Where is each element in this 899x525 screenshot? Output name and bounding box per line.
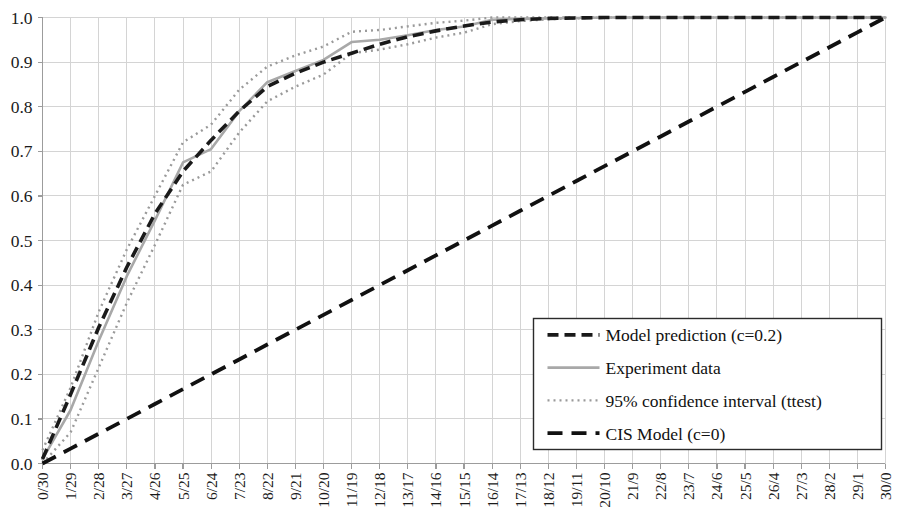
x-axis-tick-label: 3/27 xyxy=(118,472,135,500)
x-axis-tick-label: 7/23 xyxy=(231,472,248,500)
x-axis-tick-label: 2/28 xyxy=(90,472,107,500)
legend-label: Experiment data xyxy=(606,358,721,378)
x-axis-tick-label: 9/21 xyxy=(287,473,304,501)
x-axis-tick-label: 26/4 xyxy=(765,472,782,500)
x-axis-tick-label: 0/30 xyxy=(34,472,51,500)
y-axis-tick-label: 0.6 xyxy=(11,186,33,206)
x-axis-tick-label: 5/25 xyxy=(175,472,192,500)
x-axis-tick-label: 6/24 xyxy=(203,472,220,500)
x-axis-tick-label: 4/26 xyxy=(146,472,163,500)
chart-container: 1.00.90.80.70.60.50.40.30.20.10.0 0/301/… xyxy=(0,0,899,525)
x-axis-tick-label: 30/0 xyxy=(877,472,894,500)
legend-label: 95% confidence interval (ttest) xyxy=(606,391,822,411)
x-axis-tick-label: 21/9 xyxy=(624,472,641,500)
y-axis-tick-label: 0.2 xyxy=(11,364,33,384)
legend-label: CIS Model (c=0) xyxy=(606,424,726,444)
y-axis-tick-label: 0.5 xyxy=(11,231,33,251)
y-axis-tick-labels: 1.00.90.80.70.60.50.40.30.20.10.0 xyxy=(11,8,33,474)
x-axis-tick-label: 23/7 xyxy=(680,472,697,500)
x-axis-tick-label: 28/2 xyxy=(821,473,838,501)
x-axis-tick-label: 14/16 xyxy=(427,472,444,508)
x-axis-tick-label: 25/5 xyxy=(737,472,754,500)
x-axis-tick-label: 12/18 xyxy=(371,472,388,508)
y-axis-tick-label: 0.8 xyxy=(11,97,33,117)
x-axis-tick-label: 17/13 xyxy=(512,472,529,508)
y-axis-tick-label: 0.3 xyxy=(11,320,33,340)
legend-label: Model prediction (c=0.2) xyxy=(606,325,783,345)
y-axis-tick-label: 1.0 xyxy=(11,8,33,28)
y-axis-tick-label: 0.4 xyxy=(11,275,33,295)
x-axis-tick-label: 16/14 xyxy=(484,472,501,508)
x-axis-tick-label: 15/15 xyxy=(456,472,473,508)
x-axis-tick-label: 24/6 xyxy=(708,472,725,500)
x-axis-tick-label: 19/11 xyxy=(568,473,585,508)
line-chart: 1.00.90.80.70.60.50.40.30.20.10.0 0/301/… xyxy=(0,0,899,525)
x-axis-tick-label: 18/12 xyxy=(540,473,557,508)
y-axis-tick-label: 0.7 xyxy=(11,141,33,161)
chart-legend: Model prediction (c=0.2)Experiment data9… xyxy=(534,319,882,450)
y-axis-tick-label: 0.9 xyxy=(11,52,33,72)
y-axis-tick-label: 0.0 xyxy=(11,454,33,474)
x-axis-tick-label: 22/8 xyxy=(652,472,669,500)
x-axis-tick-marks xyxy=(43,464,886,469)
x-axis-tick-label: 11/19 xyxy=(343,472,360,507)
y-axis-tick-label: 0.1 xyxy=(11,409,33,429)
x-axis-tick-label: 8/22 xyxy=(259,473,276,501)
x-axis-tick-label: 20/10 xyxy=(596,472,613,508)
x-axis-tick-label: 13/17 xyxy=(399,472,416,508)
y-axis-tick-marks xyxy=(38,18,43,464)
x-axis-tick-label: 1/29 xyxy=(62,472,79,500)
x-axis-tick-labels: 0/301/292/283/274/265/256/247/238/229/21… xyxy=(34,472,894,508)
x-axis-tick-label: 29/1 xyxy=(849,473,866,501)
x-axis-tick-label: 10/20 xyxy=(315,472,332,508)
x-axis-tick-label: 27/3 xyxy=(793,472,810,500)
